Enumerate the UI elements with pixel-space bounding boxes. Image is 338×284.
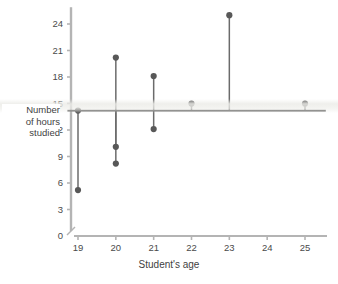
data-point xyxy=(151,73,157,79)
x-tick-label: 24 xyxy=(262,242,273,253)
data-point xyxy=(113,54,119,60)
data-point xyxy=(113,160,119,166)
y-tick-label: 18 xyxy=(52,71,63,82)
data-point xyxy=(75,187,81,193)
x-axis-title: Student's age xyxy=(0,259,338,270)
data-point-group xyxy=(75,12,308,193)
y-tick-label: 9 xyxy=(58,151,63,162)
x-tick-label: 25 xyxy=(300,242,311,253)
x-tick-group: 19202122232425 xyxy=(73,235,311,253)
y-axis-title-line-3: studied xyxy=(2,127,60,139)
x-tick-label: 20 xyxy=(111,242,122,253)
residual-plot-figure: Number of hours studied Student's age 03… xyxy=(0,0,338,284)
y-axis-title-line-2: of hours xyxy=(2,116,60,128)
x-tick-label: 22 xyxy=(186,242,197,253)
plot-canvas: 03691215182124 19202122232425 xyxy=(0,0,338,284)
data-point xyxy=(113,144,119,150)
data-point xyxy=(151,126,157,132)
data-point xyxy=(226,12,232,18)
y-tick-label: 24 xyxy=(52,18,63,29)
x-tick-label: 23 xyxy=(224,242,235,253)
x-tick-label: 19 xyxy=(73,242,84,253)
y-tick-label: 3 xyxy=(58,204,63,215)
y-axis-title-line-1: Number xyxy=(2,104,60,116)
y-tick-label: 6 xyxy=(58,177,63,188)
y-tick-label: 21 xyxy=(52,45,63,56)
data-point xyxy=(188,100,194,106)
x-axis-group: 19202122232425 xyxy=(73,235,327,253)
y-tick-label: 0 xyxy=(58,230,63,241)
data-point xyxy=(75,107,81,113)
y-axis-title: Number of hours studied xyxy=(2,104,60,139)
data-point xyxy=(302,100,308,106)
x-tick-label: 21 xyxy=(148,242,159,253)
